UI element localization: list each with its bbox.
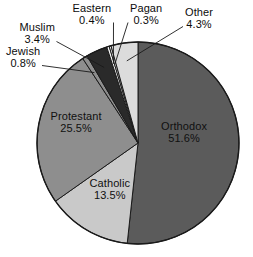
pie-label-eastern: Eastern0.4%	[73, 2, 112, 27]
pie-label-name: Orthodox	[161, 120, 207, 132]
pie-label-value: 3.4%	[20, 33, 55, 45]
pie-label-name: Other	[185, 6, 213, 18]
pie-label-value: 51.6%	[161, 132, 207, 144]
pie-label-name: Protestant	[51, 110, 102, 122]
pie-label-value: 0.3%	[130, 14, 162, 26]
pie-label-pagan: Pagan0.3%	[130, 2, 162, 27]
pie-label-other: Other4.3%	[185, 6, 213, 31]
pie-label-name: Muslim	[20, 21, 55, 33]
pie-label-catholic: Catholic13.5%	[90, 177, 131, 202]
pie-label-value: 0.8%	[6, 57, 40, 69]
pie-label-value: 13.5%	[90, 189, 131, 201]
pie-label-name: Pagan	[130, 2, 162, 14]
pie-chart: Orthodox51.6%Catholic13.5%Protestant25.5…	[0, 0, 253, 257]
pie-label-value: 25.5%	[51, 122, 102, 134]
pie-label-value: 4.3%	[185, 18, 213, 30]
pie-label-name: Eastern	[73, 2, 112, 14]
pie-slices	[37, 42, 239, 244]
pie-label-muslim: Muslim3.4%	[20, 21, 55, 46]
pie-label-orthodox: Orthodox51.6%	[161, 120, 207, 145]
pie-label-protestant: Protestant25.5%	[51, 110, 102, 135]
pie-label-jewish: Jewish0.8%	[6, 45, 40, 70]
pie-label-name: Jewish	[6, 45, 40, 57]
pie-label-value: 0.4%	[73, 14, 112, 26]
pie-label-name: Catholic	[90, 177, 131, 189]
